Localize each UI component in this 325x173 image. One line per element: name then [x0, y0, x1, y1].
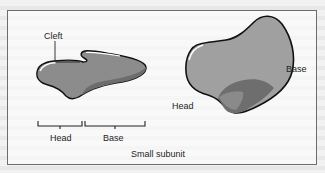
figure-artwork	[0, 0, 325, 173]
label-head-right: Head	[172, 101, 194, 111]
label-base-right: Base	[286, 64, 307, 74]
cleft-leader-line	[55, 41, 80, 62]
head-bracket	[38, 121, 82, 129]
base-bracket	[85, 121, 145, 129]
left-subunit-shape	[37, 51, 146, 99]
right-subunit-shape	[186, 16, 294, 113]
figure-caption: Small subunit	[131, 149, 185, 159]
label-cleft: Cleft	[44, 31, 63, 41]
label-head-left: Head	[50, 133, 72, 143]
label-base-left: Base	[103, 133, 124, 143]
